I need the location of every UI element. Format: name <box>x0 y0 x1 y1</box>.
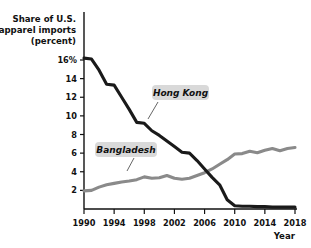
annotation-bangladesh: Bangladesh <box>95 142 157 157</box>
annotation-hong-kong: Hong Kong <box>152 85 209 100</box>
y-axis-title-line-3: (percent) <box>31 36 76 46</box>
x-tick-label: 2014 <box>253 218 276 228</box>
x-tick-label: 1990 <box>73 218 96 228</box>
y-tick-label: 12 <box>66 92 77 102</box>
x-axis-ticks <box>84 209 295 214</box>
x-tick-label: 2002 <box>163 218 186 228</box>
y-tick-label: 16% <box>57 55 77 65</box>
y-tick-label: 14 <box>66 74 78 84</box>
x-tick-label: 1994 <box>103 218 126 228</box>
annotation-hong-kong-label: Hong Kong <box>153 88 209 98</box>
series-line-hong-kong <box>84 58 295 207</box>
x-axis-tick-labels: 19901994199820022006201020142018 <box>73 218 307 228</box>
x-tick-label: 2018 <box>284 218 307 228</box>
y-tick-label: 6 <box>71 148 77 158</box>
leader-line-hong-kong <box>148 102 158 119</box>
x-tick-label: 2010 <box>223 218 246 228</box>
y-tick-label: 2 <box>71 185 77 195</box>
x-axis-title: Year <box>273 231 296 241</box>
y-axis-title-line-1: Share of U.S. <box>13 14 77 24</box>
y-tick-label: 8 <box>71 130 77 140</box>
leader-line-bangladesh <box>127 158 134 171</box>
y-axis-tick-labels: 246810121416% <box>57 55 77 195</box>
y-tick-label: 10 <box>66 111 78 121</box>
y-tick-label: 4 <box>71 167 77 177</box>
chart-figure: Share of U.S. apparel imports (percent) … <box>0 0 311 248</box>
y-axis-title-line-2: apparel imports <box>0 25 76 35</box>
x-tick-label: 1998 <box>133 218 156 228</box>
line-chart: Share of U.S. apparel imports (percent) … <box>0 0 311 248</box>
x-tick-label: 2006 <box>193 218 216 228</box>
annotation-bangladesh-label: Bangladesh <box>96 145 155 155</box>
